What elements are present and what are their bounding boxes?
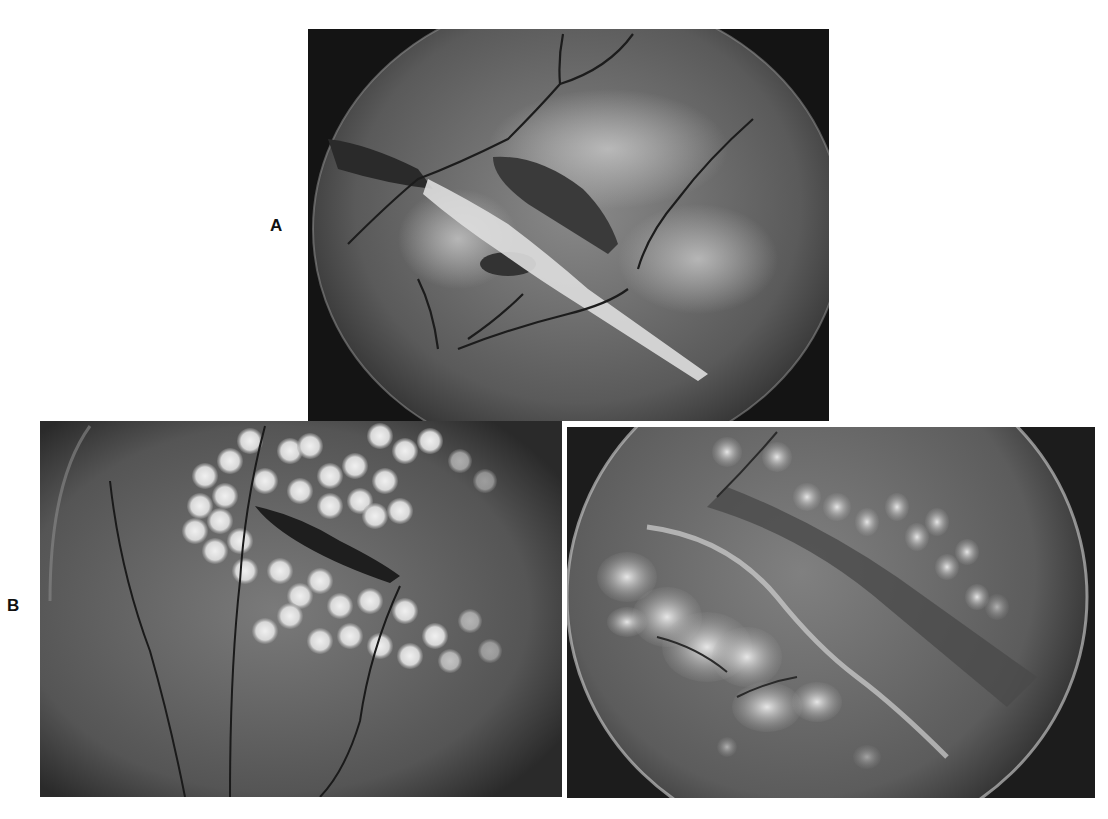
panel-label-a: A xyxy=(270,216,282,236)
fundus-photo-a xyxy=(308,29,829,421)
fundus-image-b-right xyxy=(567,427,1095,798)
panel-label-b: B xyxy=(7,596,19,616)
fundus-photo-b-right xyxy=(567,427,1095,798)
fundus-photo-b-left xyxy=(40,421,562,797)
fundus-image-a xyxy=(308,29,829,421)
fundus-image-b-left xyxy=(40,421,562,797)
